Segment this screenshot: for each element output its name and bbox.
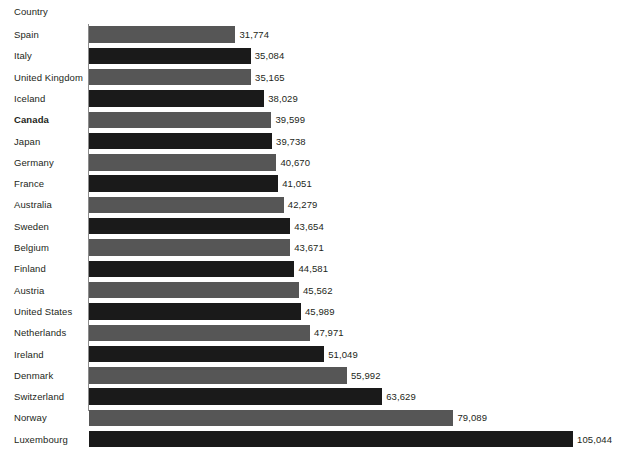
bar-germany — [89, 154, 276, 170]
category-label-finland: Finland — [14, 258, 46, 279]
bar-ireland — [89, 346, 324, 362]
bar-iceland — [89, 90, 264, 106]
bar-row: Austria45,562 — [0, 280, 636, 301]
bar-row: France41,051 — [0, 173, 636, 194]
bar-value-australia: 42,279 — [288, 194, 318, 215]
bar-finland — [89, 261, 294, 277]
bar-value-italy: 35,084 — [255, 45, 285, 66]
bar-value-spain: 31,774 — [239, 24, 269, 45]
bar-france — [89, 175, 278, 191]
bar-row: Spain31,774 — [0, 24, 636, 45]
bar-luxembourg — [89, 431, 573, 447]
bar-denmark — [89, 367, 347, 383]
bar-norway — [89, 410, 453, 426]
category-label-switzerland: Switzerland — [14, 386, 64, 407]
category-label-australia: Australia — [14, 194, 52, 215]
bar-row: Ireland51,049 — [0, 344, 636, 365]
category-label-iceland: Iceland — [14, 88, 45, 109]
bar-value-norway: 79,089 — [457, 407, 487, 428]
bar-sweden — [89, 218, 290, 234]
category-label-netherlands: Netherlands — [14, 322, 66, 343]
category-label-austria: Austria — [14, 280, 44, 301]
bar-value-belgium: 43,671 — [294, 237, 324, 258]
bar-united-states — [89, 303, 301, 319]
bar-austria — [89, 282, 299, 298]
bar-value-france: 41,051 — [282, 173, 312, 194]
bar-australia — [89, 197, 284, 213]
bar-value-united-kingdom: 35,165 — [255, 67, 285, 88]
bar-value-finland: 44,581 — [298, 258, 328, 279]
bar-row: Switzerland63,629 — [0, 386, 636, 407]
bar-value-austria: 45,562 — [303, 280, 333, 301]
bar-row: Norway79,089 — [0, 407, 636, 428]
bar-row: Denmark55,992 — [0, 365, 636, 386]
category-label-belgium: Belgium — [14, 237, 49, 258]
category-label-canada: Canada — [14, 109, 49, 130]
bar-value-japan: 39,738 — [276, 131, 306, 152]
bar-row: Italy35,084 — [0, 45, 636, 66]
bar-row: Belgium43,671 — [0, 237, 636, 258]
category-label-ireland: Ireland — [14, 344, 44, 365]
bar-value-united-states: 45,989 — [305, 301, 335, 322]
bar-value-switzerland: 63,629 — [386, 386, 416, 407]
bar-belgium — [89, 239, 290, 255]
category-label-norway: Norway — [14, 407, 47, 428]
bar-value-sweden: 43,654 — [294, 216, 324, 237]
bar-value-iceland: 38,029 — [268, 88, 298, 109]
bar-netherlands — [89, 325, 310, 341]
category-label-united-states: United States — [14, 301, 72, 322]
category-label-spain: Spain — [14, 24, 39, 45]
bar-japan — [89, 133, 272, 149]
category-label-united-kingdom: United Kingdom — [14, 67, 83, 88]
bar-spain — [89, 26, 235, 42]
category-label-france: France — [14, 173, 44, 194]
category-label-japan: Japan — [14, 131, 40, 152]
bar-row: Finland44,581 — [0, 258, 636, 279]
bar-row: United States45,989 — [0, 301, 636, 322]
category-label-italy: Italy — [14, 45, 32, 66]
bar-row: Luxembourg105,044 — [0, 429, 636, 450]
bar-switzerland — [89, 388, 382, 404]
bar-row: United Kingdom35,165 — [0, 67, 636, 88]
bar-united-kingdom — [89, 69, 251, 85]
bar-value-denmark: 55,992 — [351, 365, 381, 386]
category-label-luxembourg: Luxembourg — [14, 429, 68, 450]
bar-row: Iceland38,029 — [0, 88, 636, 109]
category-label-denmark: Denmark — [14, 365, 53, 386]
bar-value-germany: 40,670 — [280, 152, 310, 173]
bar-value-canada: 39,599 — [275, 109, 305, 130]
category-label-sweden: Sweden — [14, 216, 49, 237]
bar-value-ireland: 51,049 — [328, 344, 358, 365]
bar-row: Germany40,670 — [0, 152, 636, 173]
bar-italy — [89, 48, 251, 64]
bar-value-luxembourg: 105,044 — [577, 429, 612, 450]
bar-row: Canada39,599 — [0, 109, 636, 130]
bar-row: Sweden43,654 — [0, 216, 636, 237]
bar-row: Netherlands47,971 — [0, 322, 636, 343]
bar-row: Japan39,738 — [0, 131, 636, 152]
category-label-germany: Germany — [14, 152, 54, 173]
bar-value-netherlands: 47,971 — [314, 322, 344, 343]
bar-canada — [89, 112, 271, 128]
bar-row: Australia42,279 — [0, 194, 636, 215]
